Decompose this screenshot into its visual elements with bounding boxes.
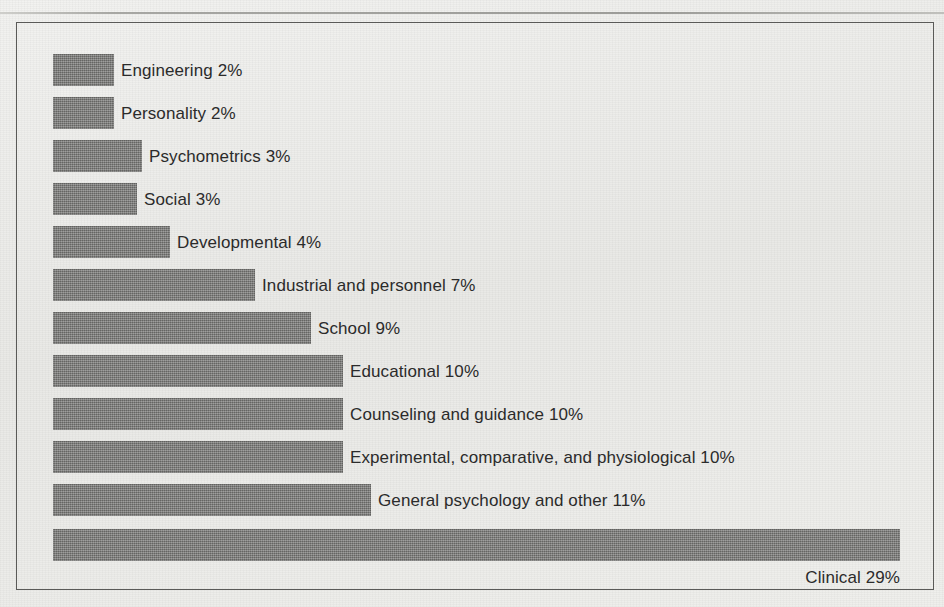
bar-data-label: Personality 2% (121, 105, 236, 122)
bar-data-label: Developmental 4% (177, 234, 321, 251)
bar-data-label: Educational 10% (350, 363, 479, 380)
bar-data-label: Social 3% (144, 191, 221, 208)
bar-data-label: Industrial and personnel 7% (262, 277, 475, 294)
bar-data-label: Engineering 2% (121, 62, 242, 79)
bar-row: Developmental 4% (53, 226, 321, 258)
bar-row: Clinical 29% (53, 529, 900, 586)
bar-data-label: General psychology and other 11% (378, 492, 646, 509)
bar-data-label: School 9% (318, 320, 400, 337)
chart-page: Engineering 2%Personality 2%Psychometric… (0, 0, 944, 607)
bar-fill (53, 484, 371, 516)
bar-fill (53, 441, 343, 473)
bar-fill (53, 183, 137, 215)
bar-data-label: Psychometrics 3% (149, 148, 290, 165)
bar-fill (53, 398, 343, 430)
bar-fill (53, 312, 311, 344)
bar-data-label: Experimental, comparative, and physiolog… (350, 449, 735, 466)
bar-row: Industrial and personnel 7% (53, 269, 475, 301)
bar-fill (53, 269, 255, 301)
bar-fill (53, 54, 114, 86)
bar-data-label: Counseling and guidance 10% (350, 406, 583, 423)
bar-fill (53, 226, 170, 258)
bar-row: Educational 10% (53, 355, 479, 387)
bar-row: Psychometrics 3% (53, 140, 290, 172)
bar-row: Experimental, comparative, and physiolog… (53, 441, 735, 473)
bar-fill (53, 97, 114, 129)
bar-row: Personality 2% (53, 97, 236, 129)
bar-row: Counseling and guidance 10% (53, 398, 583, 430)
bar-chart-plot-area: Engineering 2%Personality 2%Psychometric… (0, 0, 944, 607)
bar-fill (53, 529, 900, 561)
bar-row: General psychology and other 11% (53, 484, 646, 516)
bar-row: School 9% (53, 312, 400, 344)
bar-fill (53, 140, 142, 172)
bar-row: Engineering 2% (53, 54, 242, 86)
bar-data-label: Clinical 29% (53, 569, 900, 586)
bar-row: Social 3% (53, 183, 221, 215)
bar-fill (53, 355, 343, 387)
